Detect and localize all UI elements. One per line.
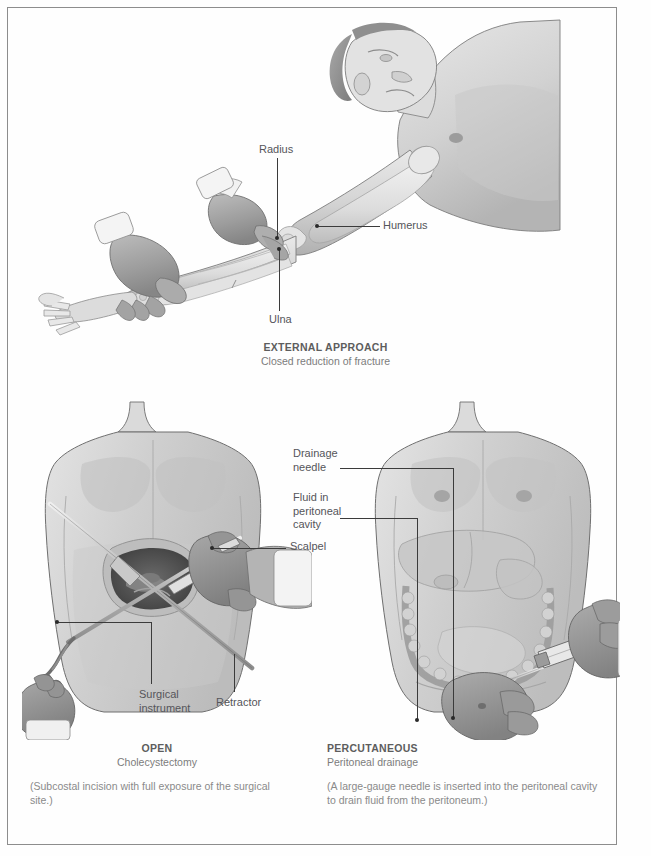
caption-subtitle-external: Closed reduction of fracture (0, 355, 651, 367)
leader-surgical-instrument-h (58, 622, 152, 623)
external-approach-artwork (0, 0, 651, 340)
leader-ulna (279, 249, 280, 311)
label-ulna: Ulna (269, 313, 292, 327)
label-humerus: Humerus (383, 219, 428, 233)
leader-dot-radius (275, 236, 279, 240)
figure-open-approach: Surgical instrument Retractor (22, 400, 312, 740)
leader-drainage-needle-v (453, 468, 454, 718)
caption-note-percutaneous: (A large-gauge needle is inserted into t… (327, 779, 605, 807)
label-surgical-instrument: Surgical instrument (139, 688, 190, 715)
leader-dot-surgical-instrument (55, 620, 59, 624)
label-radius: Radius (259, 143, 293, 157)
leader-fluid-cavity-h (340, 518, 418, 519)
leader-fluid-cavity-v (417, 518, 418, 720)
caption-subtitle-open: Cholecystectomy (14, 756, 300, 768)
illustration-plate: Radius Humerus Ulna EXTERNAL APPROACH Cl… (0, 0, 651, 856)
caption-title-external: EXTERNAL APPROACH (0, 341, 651, 353)
caption-external-approach: EXTERNAL APPROACH Closed reduction of fr… (0, 341, 651, 367)
leader-retractor (234, 654, 235, 692)
label-fluid-peritoneal-cavity: Fluid in peritoneal cavity (293, 491, 341, 532)
leader-dot-fluid-cavity (415, 718, 419, 722)
leader-dot-humerus (315, 224, 319, 228)
caption-subtitle-percutaneous: Peritoneal drainage (327, 756, 612, 768)
label-retractor: Retractor (216, 696, 261, 710)
caption-title-open: OPEN (14, 742, 300, 754)
caption-percutaneous-approach: PERCUTANEOUS Peritoneal drainage (A larg… (327, 742, 612, 807)
leader-drainage-needle-h (340, 468, 454, 469)
percutaneous-approach-artwork (350, 400, 620, 740)
figure-percutaneous-approach (350, 400, 620, 740)
label-scalpel: Scalpel (290, 540, 326, 554)
leader-dot-drainage-needle (451, 716, 455, 720)
leader-dot-scalpel (210, 546, 214, 550)
label-drainage-needle: Drainage needle (293, 447, 338, 474)
caption-title-percutaneous: PERCUTANEOUS (327, 742, 612, 754)
caption-open-approach: OPEN Cholecystectomy (Subcostal incision… (30, 742, 300, 807)
leader-surgical-instrument-v (151, 622, 152, 684)
caption-note-open: (Subcostal incision with full exposure o… (30, 779, 292, 807)
leader-scalpel (213, 548, 286, 549)
leader-humerus (318, 226, 380, 227)
leader-dot-ulna (277, 247, 281, 251)
leader-radius (277, 158, 278, 238)
figure-external-approach: Radius Humerus Ulna EXTERNAL APPROACH Cl… (0, 0, 651, 390)
